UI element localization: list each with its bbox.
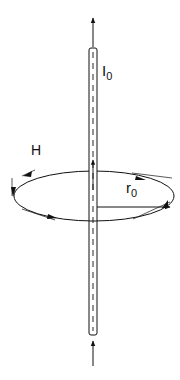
field-label: H (31, 142, 41, 158)
diagram-canvas: I0 H r0 (0, 0, 180, 380)
current-label: I0 (102, 62, 112, 82)
conductor-rod (89, 48, 97, 335)
radius-label: r0 (126, 179, 137, 199)
